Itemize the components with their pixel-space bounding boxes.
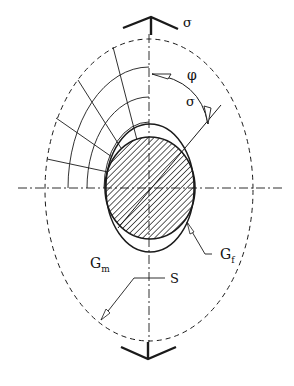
sigma-top-arrow-icon [123, 17, 178, 35]
phi-label: φ [187, 68, 197, 82]
phi-arrow-start-icon [152, 74, 171, 79]
sigma-bottom-label: σ [186, 95, 195, 108]
phi-arrow-end-icon [204, 106, 211, 124]
g-m-label: Gm [90, 256, 110, 270]
g-f-label: Gf [220, 247, 235, 261]
gf-arrow-icon [187, 222, 194, 234]
phi-arc [152, 74, 208, 124]
sigma-bottom-arrow-icon [121, 342, 176, 359]
sigma-top-label: σ [183, 16, 192, 29]
fiber-matrix-diagram [0, 0, 294, 386]
s-leader [101, 278, 165, 320]
s-label: S [170, 272, 179, 285]
